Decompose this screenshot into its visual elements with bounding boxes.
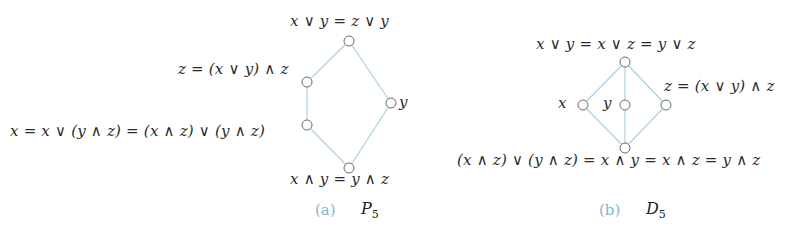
p5-label-top: x ∨ y = z ∨ y [290, 14, 389, 29]
p5-label-z: z = (x ∨ y) ∧ z [178, 62, 289, 77]
p5-caption-subscript: 5 [372, 208, 379, 221]
d5-edge-z-bottom [625, 105, 666, 148]
p5-edge-x-bottom [307, 125, 349, 168]
p5-node-y [386, 98, 396, 108]
p5-edge-top-z [307, 41, 349, 82]
p5-caption-tag: (a) [315, 203, 336, 218]
d5-caption-tag: (b) [599, 203, 620, 218]
p5-nodes [302, 36, 396, 173]
p5-edge-y-bottom [349, 103, 391, 168]
p5-edges [307, 41, 391, 168]
p5-label-bottom: x ∧ y = y ∧ z [290, 172, 389, 187]
p5-label-y: y [399, 95, 408, 110]
p5-label-x: x = x ∨ (y ∧ z) = (x ∧ z) ∨ (y ∧ z) [10, 124, 265, 139]
d5-node-y [620, 100, 630, 110]
d5-edge-top-z [625, 62, 666, 105]
d5-node-top [620, 57, 630, 67]
p5-caption-name: P5 [361, 201, 379, 220]
d5-node-z [661, 100, 671, 110]
p5-edge-top-y [349, 41, 391, 103]
d5-label-bottom: (x ∧ z) ∨ (y ∧ z) = x ∧ y = x ∧ z = y ∧ … [457, 153, 760, 168]
d5-label-z: z = (x ∨ y) ∧ z [664, 79, 775, 94]
p5-caption-letter: P [361, 199, 372, 218]
d5-caption-letter: D [646, 199, 659, 218]
d5-caption-subscript: 5 [659, 208, 666, 221]
d5-label-x: x [558, 96, 567, 111]
d5-label-top: x ∨ y = x ∨ z = y ∨ z [536, 37, 696, 52]
p5-node-z [302, 77, 312, 87]
d5-label-y: y [603, 96, 612, 111]
d5-caption-name: D5 [646, 201, 666, 220]
p5-node-top [344, 36, 354, 46]
p5-node-x [302, 120, 312, 130]
d5-node-x [578, 100, 588, 110]
